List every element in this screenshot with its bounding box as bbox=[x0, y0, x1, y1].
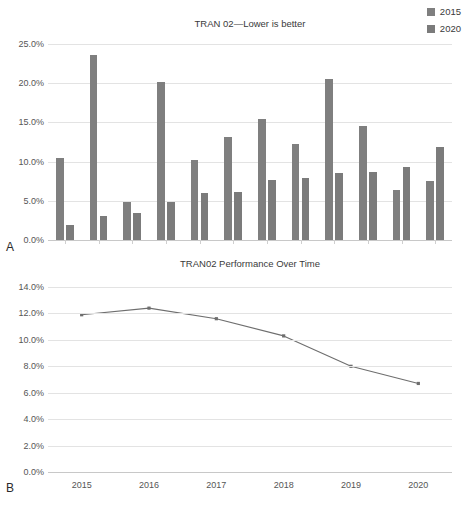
bar-2020-12[interactable] bbox=[436, 147, 444, 240]
bar-2020-7[interactable] bbox=[268, 180, 276, 240]
bar-2020-9[interactable] bbox=[335, 173, 343, 240]
bar-2015-2[interactable] bbox=[90, 55, 98, 240]
x-axis-tickmark-a bbox=[368, 240, 369, 244]
legend-swatch-2020 bbox=[427, 25, 435, 33]
line-path-tran02 bbox=[82, 308, 419, 383]
bar-2015-3[interactable] bbox=[123, 202, 131, 240]
bar-2020-2[interactable] bbox=[100, 216, 108, 240]
y-axis-tick-label-b: 0.0% bbox=[2, 467, 44, 477]
x-axis-tick-label-2020: 2020 bbox=[408, 480, 428, 490]
bar-2020-11[interactable] bbox=[403, 167, 411, 240]
plot-area-b: 0.0%2.0%4.0%6.0%8.0%10.0%12.0%14.0%20152… bbox=[48, 287, 452, 472]
x-axis-tickmark-a bbox=[65, 240, 66, 244]
x-axis-tick-label-2019: 2019 bbox=[341, 480, 361, 490]
data-point-2018[interactable] bbox=[282, 334, 285, 337]
x-axis-line-a bbox=[48, 240, 452, 241]
x-axis-tick-label-2018: 2018 bbox=[274, 480, 294, 490]
y-axis-tick-label-b: 6.0% bbox=[2, 388, 44, 398]
x-axis-tickmark-a bbox=[402, 240, 403, 244]
bar-2015-6[interactable] bbox=[224, 137, 232, 240]
gridline-a bbox=[48, 201, 452, 202]
bar-2020-6[interactable] bbox=[234, 192, 242, 240]
data-point-2017[interactable] bbox=[215, 317, 218, 320]
x-axis-tickmark-a bbox=[435, 240, 436, 244]
line-series-svg bbox=[48, 287, 452, 472]
bar-2020-1[interactable] bbox=[66, 225, 74, 240]
bar-2020-3[interactable] bbox=[133, 213, 141, 240]
bar-2015-1[interactable] bbox=[56, 158, 64, 240]
data-point-2020[interactable] bbox=[417, 382, 420, 385]
legend-item-2020[interactable]: 2020 bbox=[427, 23, 461, 34]
gridline-b bbox=[48, 287, 452, 288]
bar-2015-11[interactable] bbox=[393, 190, 401, 240]
y-axis-tick-label-b: 2.0% bbox=[2, 441, 44, 451]
y-axis-tick-label-b: 12.0% bbox=[2, 308, 44, 318]
plot-area-a: 0.0%5.0%10.0%15.0%20.0%25.0% bbox=[48, 44, 452, 240]
bar-2015-7[interactable] bbox=[258, 119, 266, 240]
legend-label-2015: 2015 bbox=[440, 6, 461, 17]
gridline-b bbox=[48, 393, 452, 394]
x-axis-tickmark-a bbox=[301, 240, 302, 244]
data-point-2016[interactable] bbox=[147, 307, 150, 310]
x-axis-tickmark-a bbox=[166, 240, 167, 244]
gridline-a bbox=[48, 83, 452, 84]
y-axis-tick-label-a: 5.0% bbox=[2, 196, 44, 206]
gridline-b bbox=[48, 419, 452, 420]
y-axis-tick-label-b: 14.0% bbox=[2, 282, 44, 292]
x-axis-tickmark-a bbox=[200, 240, 201, 244]
x-axis-tickmark-a bbox=[132, 240, 133, 244]
x-axis-tickmark-a bbox=[267, 240, 268, 244]
legend-a: 2015 2020 bbox=[427, 6, 461, 34]
gridline-b bbox=[48, 340, 452, 341]
x-axis-tick-label-2016: 2016 bbox=[139, 480, 159, 490]
x-axis-tick-label-2015: 2015 bbox=[72, 480, 92, 490]
gridline-b bbox=[48, 366, 452, 367]
bar-2015-12[interactable] bbox=[426, 181, 434, 240]
bar-2015-9[interactable] bbox=[325, 79, 333, 240]
bar-2015-4[interactable] bbox=[157, 82, 165, 240]
bar-2020-8[interactable] bbox=[302, 178, 310, 240]
gridline-a bbox=[48, 122, 452, 123]
y-axis-tick-label-b: 10.0% bbox=[2, 335, 44, 345]
y-axis-tick-label-a: 10.0% bbox=[2, 157, 44, 167]
x-axis-tick-label-2017: 2017 bbox=[206, 480, 226, 490]
gridline-b bbox=[48, 313, 452, 314]
legend-swatch-2015 bbox=[427, 8, 435, 16]
legend-item-2015[interactable]: 2015 bbox=[427, 6, 461, 17]
bar-2020-5[interactable] bbox=[201, 193, 209, 240]
bar-2015-10[interactable] bbox=[359, 126, 367, 240]
x-axis-tickmark-a bbox=[99, 240, 100, 244]
figure-root: TRAN 02—Lower is better 2015 2020 0.0%5.… bbox=[0, 0, 473, 510]
x-axis-line-b bbox=[48, 472, 452, 473]
x-axis-tickmark-a bbox=[334, 240, 335, 244]
y-axis-tick-label-a: 20.0% bbox=[2, 78, 44, 88]
gridline-a bbox=[48, 44, 452, 45]
bar-2015-5[interactable] bbox=[191, 160, 199, 240]
panel-a-bar-chart: TRAN 02—Lower is better 2015 2020 0.0%5.… bbox=[0, 0, 473, 255]
legend-label-2020: 2020 bbox=[440, 23, 461, 34]
gridline-b bbox=[48, 446, 452, 447]
panel-label-a: A bbox=[6, 240, 14, 254]
y-axis-tick-label-b: 4.0% bbox=[2, 414, 44, 424]
y-axis-tick-label-a: 25.0% bbox=[2, 39, 44, 49]
panel-label-b: B bbox=[6, 481, 14, 495]
bar-2020-10[interactable] bbox=[369, 172, 377, 240]
chart-title-b: TRAN02 Performance Over Time bbox=[48, 258, 452, 269]
x-axis-tickmark-a bbox=[233, 240, 234, 244]
bar-2015-8[interactable] bbox=[292, 144, 300, 240]
panel-b-line-chart: TRAN02 Performance Over Time 0.0%2.0%4.0… bbox=[0, 255, 473, 510]
chart-title-a: TRAN 02—Lower is better bbox=[48, 18, 452, 29]
y-axis-tick-label-b: 8.0% bbox=[2, 361, 44, 371]
y-axis-tick-label-a: 15.0% bbox=[2, 117, 44, 127]
bar-2020-4[interactable] bbox=[167, 202, 175, 240]
gridline-a bbox=[48, 162, 452, 163]
